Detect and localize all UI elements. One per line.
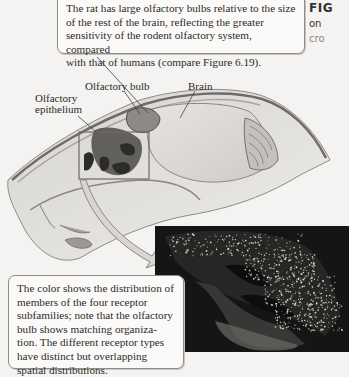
top-callout-box: The rat has large olfactory bulbs relati…: [57, 0, 305, 54]
callout-line: sensitivity of the rodent olfactory syst…: [66, 29, 298, 56]
callout-line: with that of humans (compare Figure 6.19…: [66, 56, 298, 70]
callout-line: subfamilies; note that the olfactory: [17, 309, 179, 323]
callout-line: spatial distributions.: [17, 364, 179, 377]
callout-line: bulb shows matching organiza-: [17, 323, 179, 337]
fluorescence-micrograph: [155, 226, 349, 352]
callout-line: The rat has large olfactory bulbs relati…: [66, 2, 298, 16]
label-olfactory-bulb: Olfactory bulb: [85, 81, 149, 93]
callout-line: The color shows the distribution of: [17, 282, 179, 296]
callout-line: members of the four receptor: [17, 296, 179, 310]
micrograph-image: [155, 226, 349, 352]
label-olfactory-epithelium-line2: epithelium: [35, 104, 82, 116]
label-brain: Brain: [188, 81, 212, 93]
bottom-callout-box: The color shows the distribution of memb…: [8, 275, 184, 369]
callout-line: tion. The different receptor types: [17, 336, 179, 350]
callout-line: have distinct but overlapping: [17, 350, 179, 364]
callout-line: of the rest of the brain, reflecting the…: [66, 16, 298, 30]
